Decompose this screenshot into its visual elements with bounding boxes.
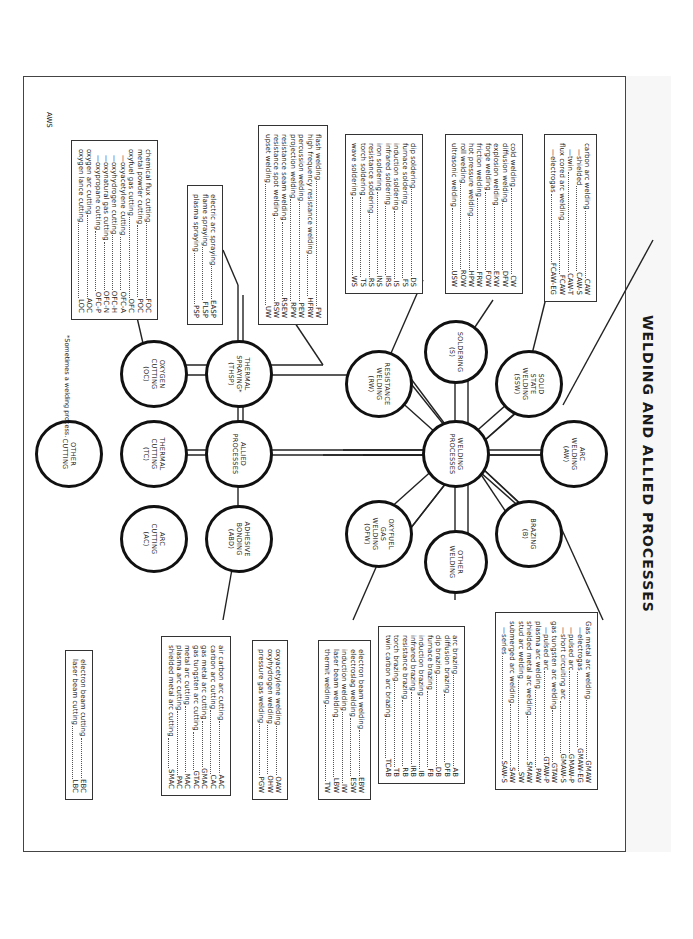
node-label: RESISTANCE [383,363,391,406]
list-item: arc brazingAB [451,635,459,777]
list-item: projection weldingRPW [288,134,296,318]
list-item: induction brazingIB [417,635,425,777]
node-arc-welding: ARC WELDING (AW) [540,420,608,488]
node-label: SOLDERING [456,332,464,373]
node-oxyfuel-gas-welding: OXYFUEL GAS WELDING (OFW) [345,500,413,568]
list-item: gas tungsten arc weldingGTAW [550,621,558,783]
node-label: WELDING [448,546,456,579]
list-item: resistance solderingRS [367,143,375,287]
list-item: hot pressure weldingHPW [467,143,475,287]
node-label: (RW) [367,376,375,393]
node-thermal-cutting: THERMAL CUTTING (TC) [120,420,188,488]
node-label: SPRAYING* [235,355,243,393]
list-item: twin carbon arc brazingTCAB [383,635,391,777]
list-other-welding: electron beam weldingEBW electroslag wel… [318,640,371,800]
node-label: CUTTING [150,524,158,555]
source-label: AWS [45,112,53,128]
node-solid-state-welding: SOLID STATE WELDING (SSW) [495,350,563,418]
list-item: friction weldingFRW [475,143,483,287]
node-label: CUTTING [150,439,158,470]
node-label: (TC) [142,447,150,461]
list-item: shielded metal arc weldingSMAW [525,621,533,783]
rotated-chart-page: WELDING AND ALLIED PROCESSES [0,0,693,939]
node-label: THERMAL [158,437,166,470]
node-label: OTHER [456,550,464,574]
list-item: iron solderingINS [375,143,383,287]
list-arc-welding-a: carbon arc weldingCAW —shieldedCAW-S —tw… [544,134,597,302]
list-item: —pulsed arcGTAW-P [542,621,550,783]
list-item: resistance spot weldingRSW [272,134,280,318]
list-item: percussion weldingPEW [297,134,305,318]
node-label: STATE [529,374,537,395]
node-label: WELDING [456,438,464,471]
node-label: (AW) [562,446,570,463]
list-item: infrared solderingIRS [383,143,391,287]
list-item: —electrogasGMAW-EG [575,621,583,783]
list-item: gas metal arc cuttingGMAC [200,645,208,789]
list-item: plasma arc cuttingPAC [175,645,183,789]
node-oxygen-cutting: OXYGEN CUTTING (OC) [120,340,188,408]
list-other-cutting: electron beam cuttingEBC laser beam cutt… [65,650,93,800]
list-brazing: arc brazingAB diffusion brazingDFB dip b… [378,626,465,784]
list-item: plasma arc weldingPAW [533,621,541,783]
list-item: laser beam weldingLBW [331,649,339,793]
list-item: —pulsed arcGMAW-P [567,621,575,783]
node-label: BONDING [235,523,243,556]
list-item: ultrasonic weldingUSW [450,143,458,287]
list-item: metal powder cuttingPOC [135,149,143,313]
list-item: —oxyhydrogen cuttingOFC-H [110,149,118,313]
list-item: upset weldingUW [263,134,271,318]
node-label: GAS [379,527,387,541]
node-label: OTHER [69,442,77,466]
list-item: electroslag weldingESW [348,649,356,793]
list-item: induction solderingIS [392,143,400,287]
list-item: forge weldingFOW [483,143,491,287]
list-item: electron beam cuttingEBC [79,659,87,793]
node-brazing: BRAZING (B) [495,500,563,568]
node-label: PROCESSES [448,433,456,474]
list-item: air carbon arc cuttingAAC [217,645,225,789]
node-label: ADHESIVE [243,521,251,556]
list-item: —seriesSAW-S [500,621,508,783]
node-resistance-welding: RESISTANCE WELDING (RW) [345,350,413,418]
node-label: WELDING [570,438,578,471]
node-label: ARC [158,532,166,546]
list-solid-state: cold weldingCW diffusion weldingDFW expl… [445,134,523,294]
node-label: (S) [448,347,456,357]
list-item: cold weldingCW [509,143,517,287]
list-item: induction weldingIW [340,649,348,793]
list-soldering: dip solderingDS furnace solderingFS indu… [345,134,423,294]
list-resistance: flash weldingFW high frequency resistanc… [258,125,328,325]
list-item: furnace brazingFB [425,635,433,777]
list-item: oxyhydrogen weldingOHW [265,649,273,793]
node-label: PROCESSES [231,433,239,474]
node-label: (THSP) [227,362,235,386]
list-item: high frequency resistance weldingHFRW [305,134,313,318]
list-item: flame sprayingFLSP [200,194,208,318]
list-item: flux cored arc weldingFCAW [557,143,565,295]
list-item: electron beam weldingEBW [357,649,365,793]
list-oxygen-cutting: chemical flux cuttingFOC metal powder cu… [71,140,158,320]
list-item: torch brazingTB [392,635,400,777]
list-item: —shieldedCAW-S [574,143,582,295]
node-label: (AC) [142,532,150,547]
list-item: pressure gas weldingPGW [257,649,265,793]
list-item: dip brazingDB [434,635,442,777]
list-item: furnace solderingFS [400,143,408,287]
list-item: oxyfuel gas cuttingOFC [127,149,135,313]
list-thermal-spraying: electric arc sprayingEASP flame spraying… [187,185,223,325]
list-item: plasma sprayingPSP [192,194,200,318]
node-soldering: SOLDERING (S) [424,320,488,384]
list-item: explosion weldingEXW [492,143,500,287]
node-arc-cutting: ARC CUTTING (AC) [120,505,188,573]
node-label: THERMAL [243,357,251,390]
list-item: thermit weldingTW [323,649,331,793]
list-item: infrared brazingIRB [409,635,417,777]
node-label: WELDING [371,518,379,551]
list-item: resistance seam weldingRSEW [280,134,288,318]
list-item: —oxynatural gas cuttingOFC-N [102,149,110,313]
list-item: —electrogasFCAW-EG [549,143,557,295]
list-item: shielded metal arc cuttingSMAC [166,645,174,789]
node-label: ARC [578,447,586,461]
list-item: —short circuiting arcGMAW-S [558,621,566,783]
